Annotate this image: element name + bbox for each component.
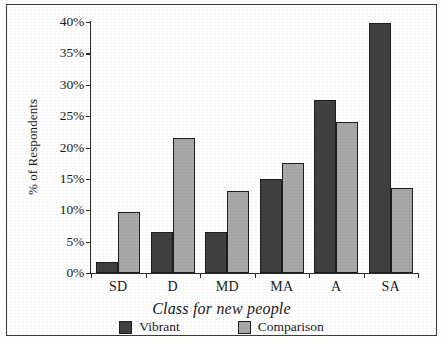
bar-comparison-md[interactable]	[227, 191, 249, 273]
bar-vibrant-a[interactable]	[314, 100, 336, 273]
y-axis-title: % of Respondents	[25, 99, 41, 195]
x-tick-label-sd: SD	[109, 279, 128, 295]
chart-legend: VibrantComparison	[7, 319, 436, 335]
bar-group	[200, 22, 255, 273]
bar-group	[255, 22, 310, 273]
x-tick-label-ma: MA	[270, 279, 293, 295]
y-tick-label: 5%	[66, 235, 84, 249]
bar-group-bars	[91, 22, 146, 273]
figure-container: % of Respondents 0%5%10%15%20%25%30%35%4…	[0, 0, 443, 341]
bar-vibrant-md[interactable]	[205, 232, 227, 273]
x-tick-mark	[91, 273, 92, 278]
bar-comparison-ma[interactable]	[282, 163, 304, 273]
bar-vibrant-d[interactable]	[151, 232, 173, 273]
bar-group-bars	[309, 22, 364, 273]
y-tick-label: 35%	[60, 47, 84, 61]
x-tick-label-sa: SA	[382, 279, 401, 295]
bar-comparison-sd[interactable]	[118, 212, 140, 273]
y-tick-label: 0%	[66, 266, 84, 280]
x-tick-mark	[200, 273, 201, 278]
bar-group	[364, 22, 419, 273]
x-tick-label-d: D	[168, 279, 178, 295]
figure-border: % of Respondents 0%5%10%15%20%25%30%35%4…	[6, 4, 437, 336]
bar-group-bars	[364, 22, 419, 273]
bar-vibrant-sa[interactable]	[369, 23, 391, 273]
bar-vibrant-sd[interactable]	[96, 262, 118, 273]
x-tick-label-md: MD	[216, 279, 239, 295]
bar-group-bars	[255, 22, 310, 273]
x-tick-label-a: A	[331, 279, 341, 295]
x-tick-mark	[364, 273, 365, 278]
y-tick-label: 20%	[60, 141, 84, 155]
legend-label: Comparison	[258, 319, 324, 335]
y-tick-label: 30%	[60, 78, 84, 92]
bar-group	[146, 22, 201, 273]
legend-item-comparison[interactable]: Comparison	[238, 319, 324, 335]
bar-group	[309, 22, 364, 273]
bar-comparison-a[interactable]	[336, 122, 358, 273]
bar-group-bars	[146, 22, 201, 273]
plot-area	[91, 22, 418, 273]
bar-group-bars	[200, 22, 255, 273]
bar-comparison-d[interactable]	[173, 138, 195, 273]
x-axis-title: Class for new people	[7, 300, 436, 318]
legend-swatch-icon	[238, 321, 251, 334]
bar-group	[91, 22, 146, 273]
legend-swatch-icon	[119, 321, 132, 334]
y-tick-label: 25%	[60, 109, 84, 123]
y-tick-label: 10%	[60, 204, 84, 218]
legend-item-vibrant[interactable]: Vibrant	[119, 319, 179, 335]
legend-label: Vibrant	[139, 319, 179, 335]
y-tick-label: 15%	[60, 172, 84, 186]
x-tick-mark	[309, 273, 310, 278]
y-tick-label: 40%	[60, 15, 84, 29]
x-tick-mark	[255, 273, 256, 278]
bar-vibrant-ma[interactable]	[260, 179, 282, 273]
x-tick-mark	[418, 273, 419, 278]
bar-comparison-sa[interactable]	[391, 188, 413, 273]
x-tick-mark	[146, 273, 147, 278]
